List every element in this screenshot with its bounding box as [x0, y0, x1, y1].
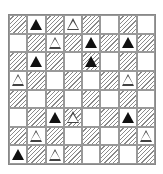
cell-r5-c3 — [64, 108, 82, 127]
cell-r0-c0 — [9, 15, 27, 34]
black-triangle-icon — [30, 19, 42, 30]
cell-r2-c3 — [64, 52, 82, 71]
cell-r0-c6 — [119, 15, 137, 34]
cell-r1-c5 — [100, 34, 118, 53]
cell-r4-c3 — [64, 90, 82, 109]
cell-r6-c5 — [100, 127, 118, 146]
cell-r3-c2 — [46, 71, 64, 90]
white-triangle-icon — [49, 149, 61, 161]
black-triangle-icon — [122, 37, 134, 48]
black-triangle-icon — [85, 56, 97, 67]
cell-r0-c2 — [46, 15, 64, 34]
cell-r2-c2 — [46, 52, 64, 71]
cell-r2-c0 — [9, 52, 27, 71]
cell-r2-c4 — [82, 52, 100, 71]
cell-r1-c0 — [9, 34, 27, 53]
cell-r5-c1 — [27, 108, 45, 127]
cell-r1-c7 — [137, 34, 155, 53]
cell-r3-c3 — [64, 71, 82, 90]
cell-r6-c7 — [137, 127, 155, 146]
white-triangle-icon — [67, 111, 79, 123]
cell-r3-c0 — [9, 71, 27, 90]
cell-r1-c1 — [27, 34, 45, 53]
cell-r1-c3 — [64, 34, 82, 53]
cell-r0-c3 — [64, 15, 82, 34]
cell-r4-c2 — [46, 90, 64, 109]
cell-r4-c4 — [82, 90, 100, 109]
cell-r3-c4 — [82, 71, 100, 90]
cell-r7-c5 — [100, 145, 118, 164]
cell-r4-c7 — [137, 90, 155, 109]
white-triangle-icon — [49, 37, 61, 49]
cell-r2-c1 — [27, 52, 45, 71]
black-triangle-icon — [122, 112, 134, 123]
cell-r6-c4 — [82, 127, 100, 146]
cell-r2-c5 — [100, 52, 118, 71]
cell-r4-c5 — [100, 90, 118, 109]
cell-r3-c5 — [100, 71, 118, 90]
cell-r7-c0 — [9, 145, 27, 164]
cell-r1-c2 — [46, 34, 64, 53]
cell-r6-c3 — [64, 127, 82, 146]
cell-r5-c5 — [100, 108, 118, 127]
cell-r6-c1 — [27, 127, 45, 146]
grid-board — [8, 14, 156, 165]
cell-r5-c0 — [9, 108, 27, 127]
cell-r0-c4 — [82, 15, 100, 34]
white-triangle-icon — [67, 18, 79, 30]
cell-r4-c1 — [27, 90, 45, 109]
cell-r7-c3 — [64, 145, 82, 164]
cell-r5-c2 — [46, 108, 64, 127]
white-triangle-icon — [30, 130, 42, 142]
cell-r5-c4 — [82, 108, 100, 127]
cell-r0-c5 — [100, 15, 118, 34]
cell-r6-c0 — [9, 127, 27, 146]
cell-r5-c6 — [119, 108, 137, 127]
black-triangle-icon — [49, 112, 61, 123]
cell-r3-c6 — [119, 71, 137, 90]
cell-r3-c1 — [27, 71, 45, 90]
cell-r1-c6 — [119, 34, 137, 53]
cell-r7-c6 — [119, 145, 137, 164]
cell-r4-c6 — [119, 90, 137, 109]
cell-r7-c7 — [137, 145, 155, 164]
cell-r5-c7 — [137, 108, 155, 127]
white-triangle-icon — [140, 130, 152, 142]
cell-r6-c2 — [46, 127, 64, 146]
black-triangle-icon — [85, 37, 97, 48]
black-triangle-icon — [12, 149, 24, 160]
cell-r7-c2 — [46, 145, 64, 164]
cell-r2-c6 — [119, 52, 137, 71]
white-triangle-icon — [122, 74, 134, 86]
black-triangle-icon — [30, 56, 42, 67]
cell-r4-c0 — [9, 90, 27, 109]
cell-r1-c4 — [82, 34, 100, 53]
cell-r6-c6 — [119, 127, 137, 146]
cell-r3-c7 — [137, 71, 155, 90]
cell-r0-c7 — [137, 15, 155, 34]
cell-r7-c4 — [82, 145, 100, 164]
cell-r2-c7 — [137, 52, 155, 71]
cell-r7-c1 — [27, 145, 45, 164]
cell-r0-c1 — [27, 15, 45, 34]
white-triangle-icon — [12, 74, 24, 86]
